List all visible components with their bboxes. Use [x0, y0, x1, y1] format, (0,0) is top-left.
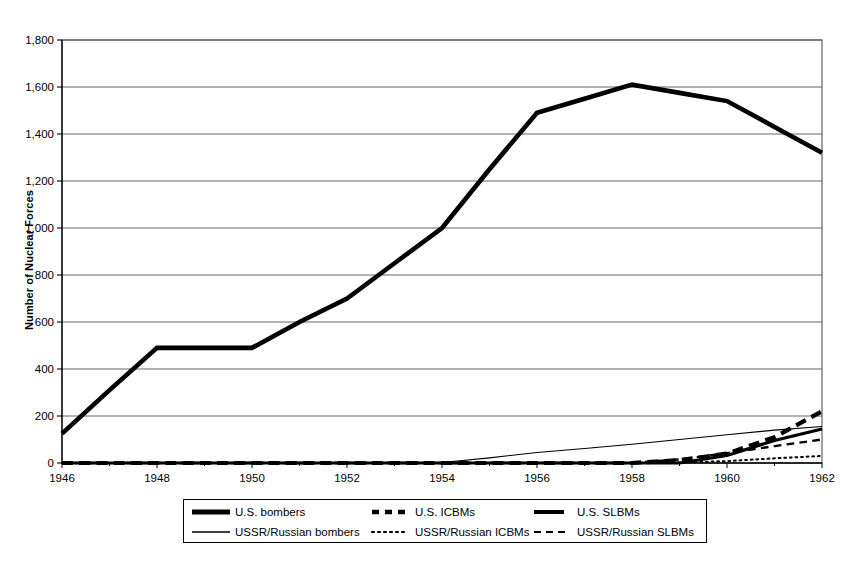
thin-solid-line: [190, 526, 234, 538]
legend-row-us: U.S. bombersU.S. ICBMsU.S. SLBMs: [184, 501, 706, 522]
legend-item[interactable]: U.S. bombers: [190, 501, 305, 522]
legend-row-ussr: USSR/Russian bombersUSSR/Russian ICBMsUS…: [184, 521, 706, 542]
legend-item[interactable]: U.S. ICBMs: [370, 501, 475, 522]
legend-item[interactable]: USSR/Russian bombers: [190, 521, 360, 542]
medium-solid-line: [532, 506, 576, 518]
nuclear-forces-chart: Number of Nuclear Forces 02004006008001,…: [0, 0, 849, 570]
data-series-layer: [62, 85, 822, 463]
legend-label: U.S. bombers: [234, 506, 305, 518]
plot-frame: [62, 40, 822, 463]
chart-legend: U.S. bombersU.S. ICBMsU.S. SLBMs USSR/Ru…: [183, 499, 707, 543]
legend-label: U.S. SLBMs: [576, 506, 640, 518]
thick-dashed-line: [370, 506, 414, 518]
axis-ticks: [57, 40, 822, 468]
legend-label: USSR/Russian SLBMs: [576, 526, 694, 538]
series-line-2: [62, 429, 822, 463]
plot-area: [0, 0, 849, 570]
legend-label: USSR/Russian bombers: [234, 526, 360, 538]
legend-item[interactable]: USSR/Russian ICBMs: [370, 521, 529, 542]
legend-item[interactable]: USSR/Russian SLBMs: [532, 521, 694, 542]
dotted-line: [370, 526, 414, 538]
legend-label: U.S. ICBMs: [414, 506, 475, 518]
series-line-0: [62, 85, 822, 434]
legend-label: USSR/Russian ICBMs: [414, 526, 529, 538]
thin-dashed-line: [532, 526, 576, 538]
thick-solid-line: [190, 506, 234, 518]
legend-item[interactable]: U.S. SLBMs: [532, 501, 640, 522]
